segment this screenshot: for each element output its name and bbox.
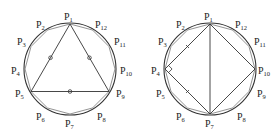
vertex-label-p11: P11 [114,36,126,48]
left-figure-triangle: P1P2P3P4P5P6P7P8P9P10P11P12 [11,11,132,130]
vertex-label-p1: P1 [204,11,213,23]
vertex-label-p10: P10 [120,65,132,77]
vertex-label-p3: P3 [17,36,26,48]
circumcircle [24,23,116,115]
vertex-label-p5: P5 [156,88,165,100]
vertex-label-p7: P7 [65,118,75,130]
vertex-label-p9: P9 [257,88,266,100]
right-angle-mark [169,65,173,72]
vertex-label-p4: P4 [11,65,21,77]
vertex-label-p3: P3 [158,36,167,48]
dodecagon [25,24,115,114]
vertex-label-p11: P11 [254,36,266,48]
vertex-label-p8: P8 [237,111,246,123]
vertex-label-p2: P2 [176,19,185,31]
vertex-label-p8: P8 [97,111,106,123]
vertex-label-p5: P5 [15,88,24,100]
diagram-canvas: P1P2P3P4P5P6P7P8P9P10P11P12 P1P2P3P4P5P6… [0,0,277,135]
vertex-label-p10: P10 [258,65,270,77]
right-figure-quadrilateral: P1P2P3P4P5P6P7P8P9P10P11P12 [151,11,270,130]
vertex-label-p12: P12 [95,19,107,31]
vertex-label-p2: P2 [36,19,45,31]
vertex-label-p6: P6 [36,111,46,123]
vertex-label-p1: P1 [64,11,73,23]
vertex-label-p6: P6 [176,111,186,123]
vertex-label-p9: P9 [116,88,125,100]
vertex-label-p4: P4 [151,65,161,77]
vertex-label-p7: P7 [205,118,215,130]
vertex-label-p12: P12 [235,19,247,31]
inscribed-polygon [31,24,109,92]
